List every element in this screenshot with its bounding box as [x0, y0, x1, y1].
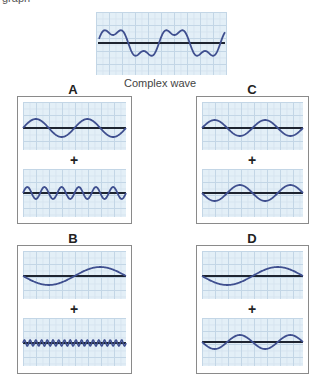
complex-wave-caption: Complex wave	[124, 77, 196, 89]
panel-d-wave-2	[202, 318, 303, 366]
panel-b: +	[17, 245, 132, 374]
panel-d: +	[196, 245, 309, 374]
wave-plot	[202, 318, 303, 366]
panel-b-wave-2	[23, 318, 126, 366]
wave-plot	[23, 318, 126, 366]
panel-c-wave-2	[202, 169, 303, 217]
panel-b-plus: +	[64, 301, 84, 317]
wave-plot	[23, 169, 126, 217]
panel-a-wave-2	[23, 169, 126, 217]
complex-wave-graph	[96, 12, 227, 75]
panel-c: +	[196, 96, 309, 224]
panel-b-wave-1	[23, 251, 126, 299]
panel-a-plus: +	[64, 152, 84, 168]
wave-plot	[23, 102, 126, 150]
panel-d-label: D	[242, 231, 262, 246]
panel-c-wave-1	[202, 102, 303, 150]
panel-a-label: A	[63, 82, 83, 97]
panel-b-label: B	[63, 231, 83, 246]
panel-d-plus: +	[242, 301, 262, 317]
complex-wave-plot	[96, 12, 227, 75]
wave-plot	[23, 251, 126, 299]
panel-c-label: C	[242, 82, 262, 97]
panel-a: +	[17, 96, 132, 224]
panel-d-wave-1	[202, 251, 303, 299]
cut-off-header-text: graph	[2, 0, 30, 4]
wave-plot	[202, 169, 303, 217]
panel-a-wave-1	[23, 102, 126, 150]
wave-plot	[202, 251, 303, 299]
wave-plot	[202, 102, 303, 150]
panel-c-plus: +	[242, 152, 262, 168]
